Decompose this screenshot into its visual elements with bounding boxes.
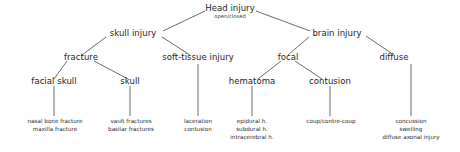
node-diffuse[interactable]: diffuse bbox=[379, 53, 408, 62]
leaf-list-contusion: coup/contre-coup bbox=[306, 117, 355, 125]
node-contusion[interactable]: contusion bbox=[309, 77, 351, 86]
leaf-list-hematoma: epidural h. subdural h. intracerebral h. bbox=[230, 117, 273, 141]
head-injury-tree-diagram: Head injury open/closed skull injury bra… bbox=[0, 0, 460, 152]
leaf-item: maxilla fracture bbox=[28, 125, 83, 133]
node-facial-skull-label: facial skull bbox=[31, 77, 76, 86]
leaf-item: swelling bbox=[382, 125, 439, 133]
node-head-injury-sublabel: open/closed bbox=[205, 14, 255, 19]
node-brain-injury-label: brain injury bbox=[312, 29, 361, 38]
node-facial-skull[interactable]: facial skull bbox=[31, 77, 76, 86]
leaf-list-skull: vault fractures basilar fractures bbox=[108, 117, 154, 133]
node-brain-injury[interactable]: brain injury bbox=[312, 29, 361, 38]
leaf-item: diffuse axonal injury bbox=[382, 133, 439, 141]
node-skull-injury[interactable]: skull injury bbox=[110, 29, 157, 38]
leaf-item: epidural h. bbox=[230, 117, 273, 125]
leaf-item: basilar fractures bbox=[108, 125, 154, 133]
leaf-item: subdural h. bbox=[230, 125, 273, 133]
leaf-item: intracerebral h. bbox=[230, 133, 273, 141]
leaf-item: nasal bone fracture bbox=[28, 117, 83, 125]
node-fracture-label: fracture bbox=[64, 53, 98, 62]
leaf-item: vault fractures bbox=[108, 117, 154, 125]
node-soft-tissue-injury-label: soft-tissue injury bbox=[162, 53, 234, 62]
leaf-item: coup/contre-coup bbox=[306, 117, 355, 125]
node-soft-tissue-injury[interactable]: soft-tissue injury bbox=[162, 53, 234, 62]
leaf-list-diffuse: concussion swelling diffuse axonal injur… bbox=[382, 117, 439, 141]
node-skull[interactable]: skull bbox=[120, 77, 139, 86]
leaf-list-soft-tissue: laceration contusion bbox=[184, 117, 212, 133]
leaf-item: contusion bbox=[184, 125, 212, 133]
node-hematoma-label: hematoma bbox=[229, 77, 276, 86]
leaf-item: laceration bbox=[184, 117, 212, 125]
node-focal-label: focal bbox=[278, 53, 299, 62]
edge-root-to-skull-injury bbox=[163, 11, 205, 31]
node-focal[interactable]: focal bbox=[278, 53, 299, 62]
edge-root-to-brain-injury bbox=[256, 11, 310, 31]
node-contusion-label: contusion bbox=[309, 77, 351, 86]
node-diffuse-label: diffuse bbox=[379, 53, 408, 62]
leaf-item: concussion bbox=[382, 117, 439, 125]
node-head-injury-label: Head injury bbox=[205, 4, 255, 13]
node-fracture[interactable]: fracture bbox=[64, 53, 98, 62]
node-hematoma[interactable]: hematoma bbox=[229, 77, 276, 86]
node-skull-injury-label: skull injury bbox=[110, 29, 157, 38]
leaf-list-facial-skull: nasal bone fracture maxilla fracture bbox=[28, 117, 83, 133]
node-head-injury[interactable]: Head injury open/closed bbox=[205, 4, 255, 19]
node-skull-label: skull bbox=[120, 77, 139, 86]
